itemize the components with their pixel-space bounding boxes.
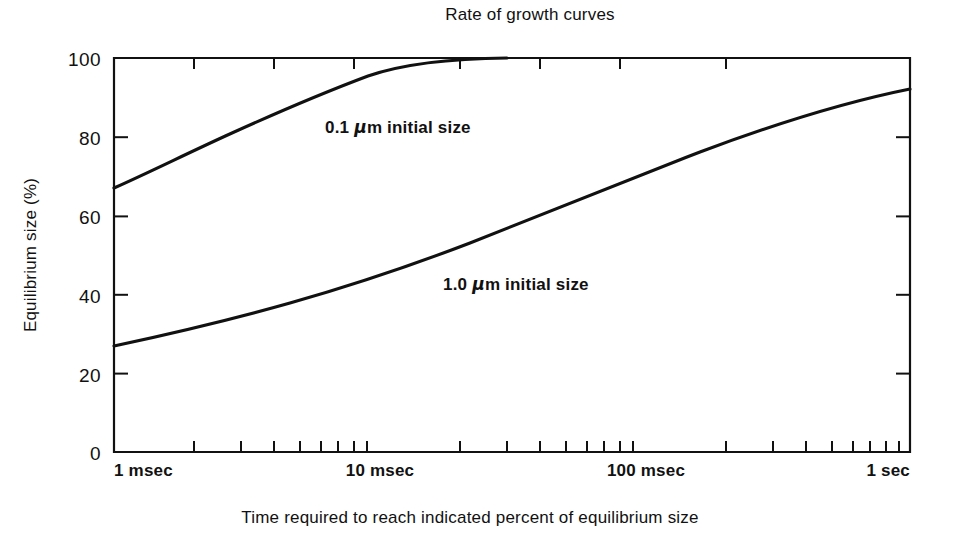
y-tick-label-20: 20 bbox=[79, 365, 101, 386]
series-label-1p0-micron: 1.0 μm initial size bbox=[443, 274, 589, 294]
series-label-1p0-suffix: m initial size bbox=[485, 275, 589, 294]
y-axis-ticks bbox=[114, 137, 128, 373]
series-label-0p1-suffix: m initial size bbox=[367, 118, 471, 137]
chart-page: Rate of growth curves Equilibrium size (… bbox=[0, 0, 960, 544]
chart-canvas: Rate of growth curves Equilibrium size (… bbox=[0, 0, 960, 544]
x-tick-label-100msec: 100 msec bbox=[607, 461, 685, 480]
series-label-1p0-prefix: 1.0 bbox=[443, 275, 472, 294]
series-label-1p0-mu: μ bbox=[471, 274, 485, 294]
y-tick-label-0: 0 bbox=[90, 443, 101, 464]
y-tick-label-60: 60 bbox=[79, 207, 101, 228]
series-label-0p1-micron: 0.1 μm initial size bbox=[325, 117, 471, 137]
curve-1p0-micron bbox=[114, 89, 910, 346]
plot-frame bbox=[114, 58, 910, 452]
y-tick-label-100: 100 bbox=[68, 49, 101, 70]
y-tick-label-80: 80 bbox=[79, 128, 101, 149]
plot-border bbox=[114, 58, 910, 452]
x-axis-title: Time required to reach indicated percent… bbox=[241, 508, 698, 527]
x-axis-minor-ticks-bottom bbox=[194, 441, 899, 452]
x-tick-label-1sec: 1 sec bbox=[866, 461, 910, 480]
series-label-0p1-mu: μ bbox=[353, 117, 367, 137]
y-axis-title: Equilibrium size (%) bbox=[21, 178, 40, 332]
x-tick-label-1msec: 1 msec bbox=[114, 461, 173, 480]
x-tick-label-10msec: 10 msec bbox=[346, 461, 415, 480]
chart-title: Rate of growth curves bbox=[445, 5, 615, 24]
rate-of-growth-chart-figure: Rate of growth curves Equilibrium size (… bbox=[0, 0, 960, 544]
y-tick-label-40: 40 bbox=[79, 286, 101, 307]
series-label-0p1-prefix: 0.1 bbox=[325, 118, 354, 137]
y-axis-ticks-right bbox=[896, 137, 910, 373]
